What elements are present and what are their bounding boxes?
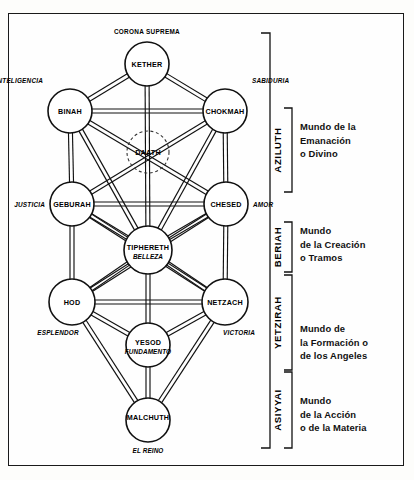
- bracket-asiyyai: [284, 372, 292, 448]
- path-tiphereth-yesod: [146, 273, 150, 325]
- outer-worlds-bracket: [261, 33, 270, 448]
- world-description-asiyyai-line-1: Mundo: [300, 395, 331, 406]
- sephira-sublabel-tiphereth: BELLEZA: [133, 253, 163, 260]
- sephira-label-kether: KETHER: [132, 60, 163, 69]
- path-geburah-chesed: [93, 202, 206, 206]
- world-description-aziluth-line-1: Mundo de la: [300, 121, 356, 132]
- world-description-yetzirah-line-3: de los Angeles: [300, 350, 367, 361]
- path-geburah-hod: [70, 225, 74, 281]
- world-description-yetzirah-line-2: la Formación o: [300, 337, 368, 348]
- sephira-label-hod: HOD: [64, 298, 81, 307]
- world-description-asiyyai-line-2: de la Acción: [300, 409, 356, 420]
- path-yesod-malchuth: [146, 366, 150, 400]
- world-description-beriah-line-3: o Tramos: [300, 252, 342, 263]
- world-description-asiyyai-line-3: o de la Materia: [300, 422, 367, 433]
- world-name-asiyyai: ASIYYAI: [272, 389, 283, 431]
- world-description-beriah-line-1: Mundo: [300, 225, 331, 236]
- sephira-label-chokmah: CHOKMAH: [206, 107, 245, 116]
- sephira-spanish-label-netzach: VICTORIA: [223, 329, 255, 336]
- path-geburah-tiphereth: [89, 213, 130, 240]
- sephira-label-daath: DAATH: [135, 148, 161, 157]
- sephira-label-geburah: GEBURAH: [53, 200, 91, 209]
- sephira-label-binah: BINAH: [58, 107, 82, 116]
- world-description-yetzirah-line-1: Mundo de: [300, 323, 345, 334]
- path-chesed-netzach: [223, 224, 228, 280]
- world-name-beriah: BERIAH: [272, 227, 283, 267]
- world-description-beriah-line-2: de la Creación: [300, 239, 366, 250]
- path-chokmah-geburah: [88, 120, 208, 195]
- sephira-label-malchuth: MALCHUTH: [127, 413, 169, 422]
- corona-suprema-label: CORONA SUPREMA: [114, 28, 180, 35]
- world-description-aziluth-line-2: Emanación: [300, 135, 351, 146]
- path-kether-chokmah: [164, 73, 209, 102]
- sephira-label-netzach: NETZACH: [207, 298, 243, 307]
- sephira-spanish-label-geburah: JUSTICIA: [14, 201, 45, 208]
- sephira-label-tiphereth: TIPHERETH: [127, 243, 170, 252]
- sephira-spanish-label-binah: INTELIGENCIA: [0, 77, 43, 84]
- sephira-label-yesod: YESOD: [135, 338, 161, 347]
- path-binah-chokmah: [91, 109, 205, 113]
- sephira-sublabel-yesod: FUNDAMENTO: [125, 348, 171, 355]
- bracket-yetzirah: [284, 275, 292, 370]
- bracket-aziluth: [284, 108, 292, 192]
- sephira-spanish-label-chokmah: SABIDURIA: [252, 77, 289, 84]
- tree-of-life-diagram: KETHERBINAHINTELIGENCIACHOKMAHSABIDURIAD…: [0, 0, 414, 480]
- path-hod-netzach: [94, 300, 204, 304]
- worlds-layer: AZILUTHMundo de laEmanacióno DivinoBERIA…: [261, 33, 368, 448]
- path-netzach-yesod: [165, 311, 207, 337]
- sephira-sublabel-malchuth: EL REINO: [133, 447, 164, 454]
- path-binah-chesed: [87, 120, 210, 195]
- diagram-page: KETHERBINAHINTELIGENCIACHOKMAHSABIDURIAD…: [0, 0, 414, 480]
- path-kether-binah: [86, 73, 130, 102]
- path-binah-geburah: [68, 131, 73, 183]
- path-chokmah-chesed: [223, 131, 228, 183]
- world-name-aziluth: AZILUTH: [272, 127, 283, 172]
- path-hod-yesod: [90, 311, 131, 337]
- world-name-yetzirah: YETZIRAH: [272, 296, 283, 349]
- sephira-label-chesed: CHESED: [210, 200, 241, 209]
- bracket-beriah: [284, 222, 292, 272]
- world-description-aziluth-line-3: o Divino: [300, 148, 338, 159]
- sephira-spanish-label-hod: ESPLENDOR: [37, 329, 79, 336]
